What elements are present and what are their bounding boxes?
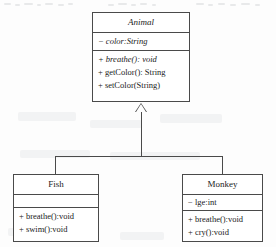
methods-compartment-monkey: + breathe():void + cry():void <box>183 211 262 241</box>
scan-artifact-patch <box>160 114 222 123</box>
uml-class-diagram-canvas: Animal − color:String + breathe(): void … <box>0 0 276 247</box>
class-box-animal[interactable]: Animal − color:String + breathe(): void … <box>92 12 190 102</box>
generalization-bus <box>55 156 223 157</box>
methods-compartment-animal: + breathe(): void + getColor(): String +… <box>93 51 189 94</box>
generalization-branch-fish <box>55 156 56 174</box>
class-name-compartment-animal: Animal <box>93 13 189 33</box>
attributes-compartment-animal: − color:String <box>93 33 189 51</box>
class-name-compartment-fish: Fish <box>14 175 98 195</box>
method-row: + cry():void <box>183 226 262 239</box>
method-row: + breathe():void <box>14 210 98 223</box>
scan-artifact-patch <box>120 232 164 240</box>
method-row: + breathe():void <box>183 213 262 226</box>
class-name-monkey: Monkey <box>183 175 262 194</box>
method-row: + setColor(String) <box>93 79 189 92</box>
scan-artifact-patch <box>90 120 142 128</box>
methods-compartment-fish: + breathe():void + swim():void <box>14 208 98 238</box>
class-name-animal: Animal <box>93 13 189 32</box>
generalization-stem <box>141 112 142 156</box>
attribute-row: − lge:int <box>183 196 262 209</box>
method-row: + swim():void <box>14 223 98 236</box>
class-name-compartment-monkey: Monkey <box>183 175 262 195</box>
scan-artifact-patch <box>18 112 76 121</box>
class-box-fish[interactable]: Fish + breathe():void + swim():void <box>13 174 99 242</box>
class-name-fish: Fish <box>14 175 98 194</box>
class-box-monkey[interactable]: Monkey − lge:int + breathe():void + cry(… <box>182 174 263 242</box>
attribute-row: − color:String <box>93 35 189 48</box>
attributes-compartment-monkey: − lge:int <box>183 195 262 211</box>
generalization-branch-monkey <box>222 156 223 174</box>
generalization-arrowhead-fill <box>136 104 146 112</box>
attributes-compartment-fish <box>14 195 98 208</box>
method-row: + getColor(): String <box>93 66 189 79</box>
method-row: + breathe(): void <box>93 53 189 66</box>
